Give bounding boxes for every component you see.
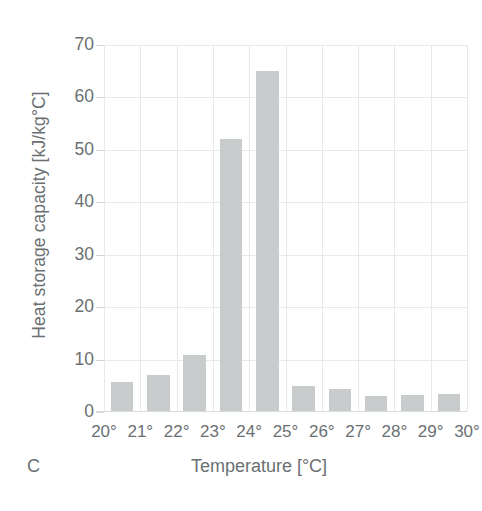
- x-axis-baseline: [96, 411, 467, 412]
- gridline-vertical: [467, 45, 468, 412]
- bar: [292, 386, 315, 412]
- tick-mark: [96, 307, 104, 308]
- y-axis-tick-label: 60: [52, 89, 94, 107]
- x-axis-tick-label: 23°: [200, 422, 226, 442]
- x-axis-tick-label: 24°: [236, 422, 262, 442]
- y-axis-title: Heat storage capacity [kJ/kg°C]: [26, 15, 52, 415]
- x-axis-tick-label: 21°: [127, 422, 153, 442]
- bar: [111, 382, 134, 412]
- bar: [365, 396, 388, 412]
- x-axis-tick-label: 28°: [382, 422, 408, 442]
- y-axis-tick-label: 50: [52, 141, 94, 159]
- x-axis-title: Temperature [°C]: [104, 456, 414, 477]
- tick-mark: [96, 202, 104, 203]
- bar: [401, 395, 424, 412]
- tick-mark: [96, 360, 104, 361]
- y-axis-tick-label: 70: [52, 36, 94, 54]
- y-axis-tick-label: 0: [52, 403, 94, 421]
- bar: [329, 389, 352, 412]
- bar: [183, 355, 206, 412]
- tick-mark: [96, 150, 104, 151]
- bar: [438, 394, 461, 412]
- y-axis-tick-labels: 010203040506070: [52, 33, 94, 417]
- tick-mark: [96, 412, 104, 413]
- y-axis-tick-label: 40: [52, 194, 94, 212]
- x-axis-tick-label: 27°: [345, 422, 371, 442]
- bar: [147, 375, 170, 412]
- bar: [220, 139, 243, 412]
- x-axis-tick-label: 22°: [164, 422, 190, 442]
- plot-area: [104, 45, 467, 412]
- y-axis-tick-label: 20: [52, 298, 94, 316]
- x-axis-tick-label: 29°: [418, 422, 444, 442]
- x-axis-tick-label: 26°: [309, 422, 335, 442]
- x-axis-tick-label: 30°: [454, 422, 480, 442]
- x-axis-tick-label: 25°: [273, 422, 299, 442]
- panel-label: C: [27, 456, 40, 477]
- x-axis-tick-label: 20°: [91, 422, 117, 442]
- chart-figure: Heat storage capacity [kJ/kg°C] 01020304…: [0, 0, 482, 511]
- tick-mark: [96, 97, 104, 98]
- y-axis-tick-label: 10: [52, 351, 94, 369]
- tick-mark: [96, 255, 104, 256]
- bar-series: [104, 45, 467, 412]
- x-axis-tick-labels: 20°21°22°23°24°25°26°27°28°29°30°: [104, 422, 467, 446]
- y-axis-tick-label: 30: [52, 246, 94, 264]
- tick-mark: [96, 45, 104, 46]
- bar: [256, 71, 279, 412]
